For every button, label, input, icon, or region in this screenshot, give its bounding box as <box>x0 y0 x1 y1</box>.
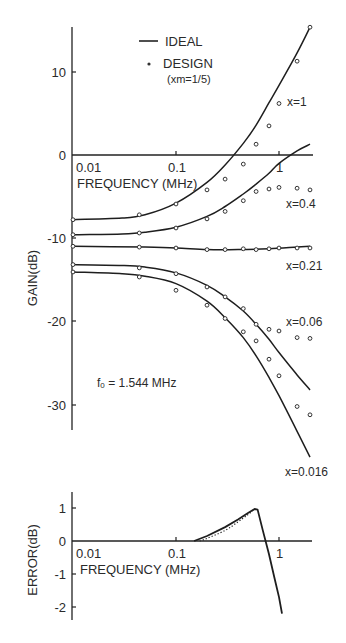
design-point <box>137 245 141 249</box>
design-point <box>71 218 75 222</box>
design-point <box>137 275 141 279</box>
design-point <box>308 337 312 341</box>
design-point <box>223 295 227 299</box>
design-point <box>308 246 312 250</box>
series-label-x0.016: x=0.016 <box>285 465 328 479</box>
design-point <box>223 177 227 181</box>
design-point <box>277 246 281 250</box>
gain-ytick-minus30: -30 <box>47 398 66 413</box>
design-point <box>254 190 258 194</box>
legend-design-dot-icon <box>147 62 150 65</box>
design-point <box>137 266 141 270</box>
error-xtick-0.1: 0.1 <box>168 546 186 561</box>
design-point <box>205 248 209 252</box>
error-y-label: ERROR(dB) <box>25 524 40 596</box>
legend: IDEAL DESIGN (xm=1/5) <box>139 34 213 85</box>
design-point <box>254 322 258 326</box>
design-point <box>71 263 75 267</box>
design-point <box>241 247 245 251</box>
design-point <box>71 244 75 248</box>
design-point <box>277 102 281 106</box>
gain-y-label: GAIN(dB) <box>25 250 40 306</box>
design-point <box>267 187 271 191</box>
design-point <box>205 217 209 221</box>
design-point <box>241 330 245 334</box>
error-xtick-0.01: 0.01 <box>76 546 101 561</box>
design-point <box>223 317 227 321</box>
gain-xtick-0.1: 0.1 <box>168 160 186 175</box>
design-point <box>241 162 245 166</box>
gain-x-label: FREQUENCY (MHz) <box>77 176 197 191</box>
error-ytick-0: 0 <box>59 534 66 549</box>
design-point <box>295 59 299 63</box>
design-point <box>205 303 209 307</box>
legend-ideal-label: IDEAL <box>165 34 203 49</box>
design-point <box>174 288 178 292</box>
design-point <box>223 210 227 214</box>
design-point <box>277 186 281 190</box>
design-point <box>267 357 271 361</box>
design-point <box>174 272 178 276</box>
design-point <box>308 188 312 192</box>
ideal-curve-x=0.06 <box>73 265 310 390</box>
ideal-curve-x=0.016 <box>73 272 310 457</box>
series-label-x0.4: x=0.4 <box>286 197 316 211</box>
design-point <box>174 226 178 230</box>
design-point <box>295 336 299 340</box>
design-point <box>295 405 299 409</box>
design-point <box>308 25 312 29</box>
design-point <box>254 142 258 146</box>
gain-ytick-minus10: -10 <box>47 231 66 246</box>
design-point <box>205 285 209 289</box>
gain-ideal-curves <box>73 27 310 457</box>
design-point <box>267 327 271 331</box>
design-point <box>308 413 312 417</box>
error-ytick-1: 1 <box>59 501 66 516</box>
error-chart: 1 0 -1 -2 0.01 0.1 1 FREQUENCY (MHz) ERR… <box>25 492 312 620</box>
design-point <box>267 124 271 128</box>
error-x-label: FREQUENCY (MHz) <box>80 562 200 577</box>
design-point <box>267 247 271 251</box>
design-point <box>174 202 178 206</box>
design-point <box>241 199 245 203</box>
design-point <box>254 339 258 343</box>
error-solid-curve <box>194 509 282 614</box>
design-point <box>71 233 75 237</box>
error-ytick-minus1: -1 <box>54 567 66 582</box>
f0-annotation: f0 = 1.544 MHz <box>97 376 177 390</box>
design-point <box>137 213 141 217</box>
design-point <box>295 186 299 190</box>
design-point <box>205 188 209 192</box>
legend-design-label: DESIGN <box>163 56 213 71</box>
design-point <box>223 248 227 252</box>
ideal-curve-x=0.21 <box>73 246 310 249</box>
design-point <box>174 246 178 250</box>
series-label-x0.21: x=0.21 <box>286 259 323 273</box>
gain-ytick-0: 0 <box>59 148 66 163</box>
gain-ytick-minus20: -20 <box>47 314 66 329</box>
design-point <box>277 329 281 333</box>
error-curves <box>194 509 282 614</box>
gain-ytick-10: 10 <box>52 65 66 80</box>
error-xtick-1: 1 <box>276 546 283 561</box>
series-label-x1: x=1 <box>287 95 307 109</box>
design-point <box>241 307 245 311</box>
design-point <box>71 270 75 274</box>
error-ytick-minus2: -2 <box>54 600 66 615</box>
design-point <box>295 246 299 250</box>
design-point <box>254 248 258 252</box>
figure: 10 0 -10 -20 -30 0.01 0.1 1 FREQUENCY (M… <box>0 0 346 643</box>
gain-xtick-0.01: 0.01 <box>76 160 101 175</box>
design-point <box>277 374 281 378</box>
legend-design-sublabel: (xm=1/5) <box>167 73 211 85</box>
gain-chart: 10 0 -10 -20 -30 0.01 0.1 1 FREQUENCY (M… <box>25 25 328 479</box>
series-label-x0.06: x=0.06 <box>286 315 323 329</box>
design-point <box>137 231 141 235</box>
